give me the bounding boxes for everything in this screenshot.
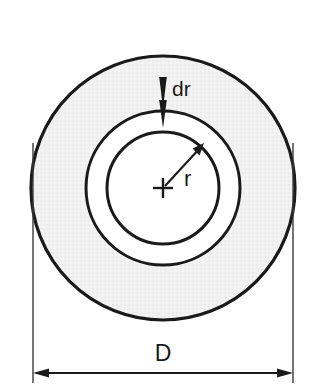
concentric-circles-diagram: dr r D xyxy=(0,0,323,391)
diameter-left-arrowhead-icon xyxy=(33,369,49,378)
radius-label: r xyxy=(184,166,191,191)
diameter-dimension: D xyxy=(33,340,293,377)
diagram-canvas: dr r D xyxy=(0,0,323,391)
diameter-right-arrowhead-icon xyxy=(277,369,293,378)
diameter-label: D xyxy=(155,340,172,366)
dr-label: dr xyxy=(172,77,191,100)
